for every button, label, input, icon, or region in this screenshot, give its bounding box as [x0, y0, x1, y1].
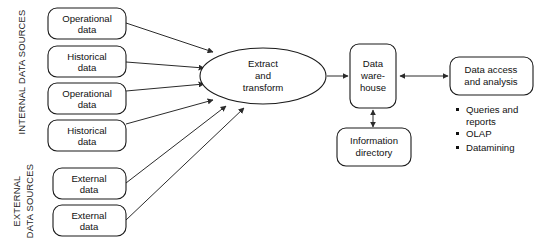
external-source-2-line2: data [80, 221, 99, 232]
bullet-marker-icon [456, 108, 459, 111]
internal-source-3-line2: data [78, 99, 97, 110]
internal-source-4: Historical data [48, 120, 126, 151]
data-access-line2: and analysis [464, 76, 518, 87]
extract-transform-line3: transform [243, 82, 284, 93]
data-access-node: Data access and analysis [450, 57, 533, 95]
extract-transform-process: Extract and transform [200, 48, 326, 104]
data-warehouse-node: Data ware- house [350, 44, 396, 108]
information-directory-line1: Information [350, 135, 398, 146]
external-source-1: External data [53, 168, 126, 199]
bullet-item-queries: Queries and reports [456, 104, 518, 127]
information-directory-line2: directory [356, 147, 393, 158]
bullet-item-queries-line1: Queries and [466, 104, 518, 115]
arrow-internal-1-to-process [126, 23, 213, 52]
internal-source-2-line2: data [78, 62, 97, 73]
arrow-external-1-to-process [126, 106, 226, 183]
bullet-item-datamining-line1: Datamining [466, 142, 515, 153]
arrow-internal-4-to-process [126, 100, 213, 124]
data-warehouse-diagram: INTERNAL DATA SOURCES EXTERNAL DATA SOUR… [0, 0, 537, 246]
internal-source-3-line1: Operational [62, 88, 112, 99]
bullet-item-datamining: Datamining [456, 142, 515, 153]
internal-sources-label: INTERNAL DATA SOURCES [17, 10, 27, 135]
internal-source-2: Historical data [48, 46, 126, 77]
internal-source-2-line1: Historical [67, 51, 106, 62]
internal-source-3: Operational data [48, 83, 126, 114]
bullet-marker-icon [456, 146, 459, 149]
bullet-item-queries-line2: reports [466, 116, 496, 127]
internal-source-1-line2: data [78, 24, 97, 35]
arrow-external-2-to-process [126, 108, 244, 220]
external-sources-label-line2: DATA SOURCES [25, 164, 35, 238]
extract-transform-line1: Extract [248, 58, 278, 69]
external-source-1-line1: External [71, 173, 106, 184]
data-access-line1: Data access [465, 64, 518, 75]
data-warehouse-line2: ware- [360, 70, 385, 81]
data-warehouse-line1: Data [363, 58, 384, 69]
information-directory-node: Information directory [337, 128, 411, 166]
external-source-1-line2: data [80, 184, 99, 195]
internal-source-4-line1: Historical [67, 125, 106, 136]
internal-source-1: Operational data [48, 8, 126, 39]
bullet-marker-icon [456, 132, 459, 135]
internal-source-4-line2: data [78, 136, 97, 147]
data-access-bullet-list: Queries and reports OLAP Datamining [456, 104, 518, 153]
internal-sources-label-text: INTERNAL DATA SOURCES [17, 10, 27, 135]
external-source-2-line1: External [71, 210, 106, 221]
external-source-2: External data [53, 205, 126, 236]
external-sources-label-line1: EXTERNAL [12, 175, 22, 226]
extract-transform-line2: and [255, 70, 271, 81]
internal-source-1-line1: Operational [62, 13, 112, 24]
data-warehouse-line3: house [360, 82, 386, 93]
bullet-item-olap-line1: OLAP [466, 128, 492, 139]
arrow-internal-3-to-process [126, 84, 204, 91]
diagram-canvas: INTERNAL DATA SOURCES EXTERNAL DATA SOUR… [0, 0, 537, 246]
external-sources-label: EXTERNAL DATA SOURCES [12, 164, 35, 238]
arrow-internal-2-to-process [126, 62, 204, 68]
bullet-item-olap: OLAP [456, 128, 492, 139]
